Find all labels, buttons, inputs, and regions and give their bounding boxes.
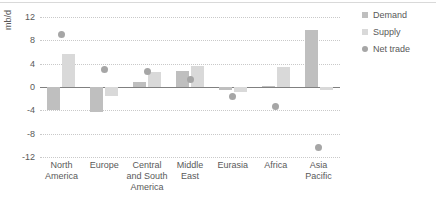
x-axis-category-label: AsiaPacific	[291, 160, 346, 182]
x-axis-label-line: America	[120, 182, 175, 193]
bar-supply	[62, 54, 75, 87]
x-axis-label-line: Pacific	[291, 171, 346, 182]
bar-supply	[105, 87, 118, 96]
x-axis-label-line: East	[163, 171, 218, 182]
bar-demand	[90, 87, 103, 112]
legend-item-net-trade: Net trade	[362, 44, 436, 54]
net-trade-marker	[144, 68, 151, 75]
y-axis-tick-label: 4	[30, 59, 35, 68]
x-axis-label-line: Asia	[291, 160, 346, 171]
y-axis-tick-label: 8	[30, 36, 35, 45]
bar-supply	[148, 72, 161, 87]
gridline	[40, 110, 340, 111]
net-trade-marker	[187, 76, 194, 83]
legend-item-demand: Demand	[362, 10, 436, 20]
gridline	[40, 64, 340, 65]
gridline	[40, 134, 340, 135]
bar-demand	[262, 86, 275, 87]
net-trade-marker	[272, 103, 279, 110]
y-axis-tick-label: 0	[30, 83, 35, 92]
net-trade-marker	[58, 31, 65, 38]
gridline	[40, 17, 340, 18]
net-trade-marker	[229, 93, 236, 100]
square-swatch-icon	[362, 12, 368, 18]
y-axis-title: mb/d	[4, 10, 13, 30]
gridline	[40, 40, 340, 41]
legend-item-supply: Supply	[362, 27, 436, 37]
bar-demand	[47, 87, 60, 110]
legend-label-net-trade: Net trade	[373, 44, 410, 54]
legend-label-supply: Supply	[373, 27, 401, 37]
legend-label-demand: Demand	[373, 10, 407, 20]
bar-supply	[234, 87, 247, 92]
zero-axis-line	[40, 87, 340, 88]
plot-area: 12840-4-8-12	[40, 17, 340, 157]
bar-demand	[219, 87, 232, 90]
y-axis-tick-label: -8	[27, 129, 35, 138]
y-axis-tick-label: 12	[25, 13, 35, 22]
gridline	[40, 157, 340, 158]
bar-supply	[277, 67, 290, 87]
bar-demand	[133, 82, 146, 87]
net-trade-marker	[315, 144, 322, 151]
y-axis-tick-label: -4	[27, 106, 35, 115]
chart-container: mb/d 12840-4-8-12 NorthAmericaEuropeCent…	[0, 0, 436, 215]
bar-demand	[305, 30, 318, 87]
square-swatch-icon	[362, 29, 368, 35]
circle-marker-icon	[362, 46, 368, 52]
x-axis-label-line: America	[34, 171, 89, 182]
bar-supply	[320, 87, 333, 90]
chart-legend: Demand Supply Net trade	[362, 10, 436, 61]
net-trade-marker	[101, 66, 108, 73]
figure-top-divider	[0, 2, 436, 3]
